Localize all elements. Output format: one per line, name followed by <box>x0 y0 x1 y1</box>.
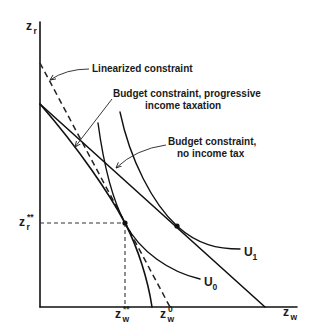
progressive-budget-curve <box>40 104 152 307</box>
linearized-leader-arrow-icon <box>50 69 89 80</box>
progressive-leader-arrow-icon <box>75 99 112 147</box>
y-axis-label: z r <box>26 19 38 36</box>
no-tax-constraint-label-line1: Budget constraint, <box>168 136 257 147</box>
tangency-point-progressive <box>122 220 127 225</box>
no-tax-constraint-label-line2: no income tax <box>177 148 245 159</box>
u0-label: U 0 <box>204 275 218 292</box>
indifference-curve-u1 <box>120 112 240 249</box>
progressive-constraint-label-line1: Budget constraint, progressive <box>113 88 261 99</box>
no-tax-budget-line <box>40 104 265 307</box>
u1-label: U 1 <box>244 245 258 262</box>
diagram-canvas: Linearized constraint Budget constraint,… <box>0 0 313 336</box>
progressive-constraint-label-line2: income taxation <box>145 100 221 111</box>
linearized-constraint-label: Linearized constraint <box>92 63 193 74</box>
budget-constraint-diagram: Linearized constraint Budget constraint,… <box>0 0 313 336</box>
zr-star-label: z r ** <box>19 212 34 233</box>
tangency-point-no-tax <box>174 223 179 228</box>
no-tax-leader-arrow-icon <box>116 145 166 168</box>
